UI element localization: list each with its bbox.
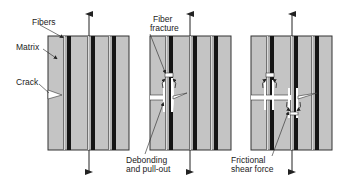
fiber-fracture-gap bbox=[266, 73, 274, 77]
label-crack: Crack bbox=[16, 78, 38, 87]
label-debonding-2: and pull-out bbox=[126, 165, 170, 174]
fiber bbox=[87, 36, 95, 150]
fiber bbox=[210, 36, 218, 150]
fiber bbox=[63, 36, 71, 150]
label-fiber-fracture-2: fracture bbox=[150, 24, 179, 33]
fiber-fracture-gap bbox=[165, 73, 173, 77]
fiber bbox=[311, 36, 319, 150]
label-fibers: Fibers bbox=[32, 18, 56, 27]
panel-debonding bbox=[145, 14, 231, 172]
crack-gap bbox=[251, 95, 291, 100]
fiber bbox=[108, 36, 116, 150]
label-matrix: Matrix bbox=[16, 43, 39, 52]
panel-crack bbox=[39, 14, 129, 172]
label-frictional-2: shear force bbox=[231, 165, 274, 174]
panel-frictional-shear bbox=[251, 14, 332, 172]
fiber-fracture-gap bbox=[290, 112, 298, 115]
crack-gap bbox=[150, 95, 165, 100]
fiber bbox=[189, 36, 197, 150]
